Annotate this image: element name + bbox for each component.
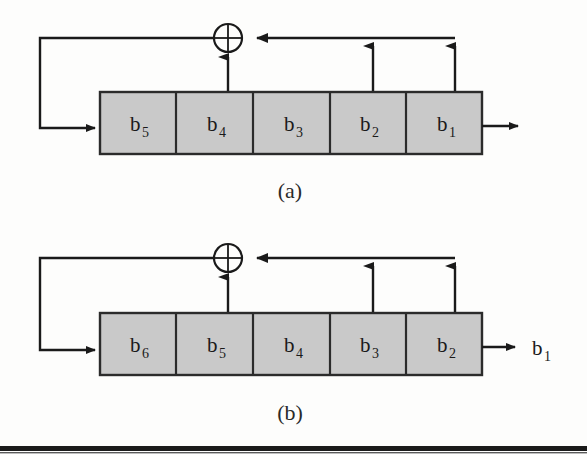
- cell-label-sub: 5: [219, 346, 226, 361]
- cell-label-base: b: [207, 112, 218, 136]
- cell-label-sub: 2: [449, 346, 456, 361]
- cell-label-base: b: [437, 333, 448, 357]
- lfsr-figure-canvas: b 5 b 4 b 3 b 2 b 1: [0, 0, 587, 460]
- cell-label-base: b: [360, 112, 371, 136]
- figure-a-xor-gate: [214, 24, 242, 52]
- output-label-sub: 1: [544, 349, 551, 364]
- figure-a-group: b 5 b 4 b 3 b 2 b 1: [40, 24, 518, 203]
- cell-label-sub: 5: [142, 125, 149, 140]
- cell-label-base: b: [130, 112, 141, 136]
- cell-label-sub: 3: [296, 125, 303, 140]
- figure-a-caption: (a): [278, 178, 302, 203]
- cell-label-base: b: [360, 333, 371, 357]
- figure-page: b 5 b 4 b 3 b 2 b 1: [0, 0, 587, 460]
- cell-label-sub: 2: [372, 125, 379, 140]
- cell-label-base: b: [130, 333, 141, 357]
- figure-b-output-label: b 1: [532, 336, 551, 364]
- cell-label-base: b: [207, 333, 218, 357]
- cell-label-sub: 4: [296, 346, 303, 361]
- cell-label-base: b: [284, 333, 295, 357]
- cell-label-base: b: [437, 112, 448, 136]
- cell-label-sub: 4: [219, 125, 226, 140]
- cell-label-sub: 3: [372, 346, 379, 361]
- bottom-horizontal-rule: [0, 446, 587, 453]
- figure-b-caption: (b): [277, 400, 303, 425]
- figure-b-group: b 6 b 5 b 4 b 3 b 2: [40, 244, 551, 425]
- cell-label-base: b: [284, 112, 295, 136]
- figure-b-xor-gate: [214, 244, 242, 272]
- cell-label-sub: 1: [449, 125, 456, 140]
- output-label-base: b: [532, 336, 543, 360]
- cell-label-sub: 6: [142, 346, 149, 361]
